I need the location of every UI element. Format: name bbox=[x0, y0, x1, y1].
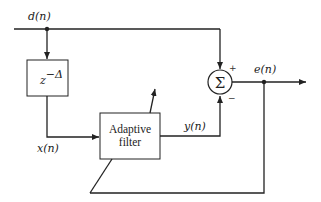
filter-label-line1: Adaptive bbox=[109, 123, 151, 136]
filter-label-line2: filter bbox=[119, 136, 142, 148]
adaptation-arrow-bottom bbox=[90, 159, 112, 193]
filter-output-label: y(n) bbox=[183, 120, 206, 133]
plus-sign: + bbox=[229, 63, 237, 73]
error-signal-label: e(n) bbox=[254, 63, 276, 76]
minus-sign: − bbox=[228, 93, 236, 103]
block-diagram: d(n) z−Δ x(n) Adaptive filter y(n) Σ + −… bbox=[0, 0, 321, 202]
adaptation-arrow-top bbox=[150, 89, 155, 113]
input-signal-label: d(n) bbox=[28, 10, 51, 23]
delayed-signal-label: x(n) bbox=[37, 142, 59, 155]
delay-to-filter-line bbox=[47, 96, 99, 137]
sigma-symbol: Σ bbox=[215, 74, 226, 92]
